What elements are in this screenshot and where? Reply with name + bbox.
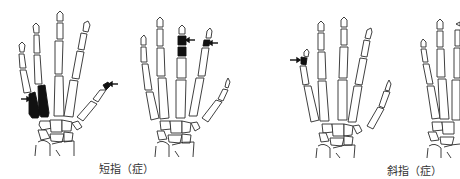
arrows — [290, 58, 300, 62]
carpals — [157, 121, 200, 143]
middle-finger — [176, 25, 186, 118]
middle-finger — [54, 11, 64, 116]
highlighted-middle-phalanx — [301, 57, 307, 65]
forearm — [316, 144, 355, 158]
ring-finger — [437, 19, 449, 119]
hand-4 — [421, 19, 460, 158]
hand-skeleton-figure — [0, 0, 460, 179]
little-finger — [141, 35, 159, 120]
thumb — [367, 80, 391, 129]
forearm — [35, 140, 74, 156]
carpals — [428, 122, 454, 145]
hand-3 — [290, 17, 391, 158]
forearm — [427, 144, 460, 158]
carpals — [319, 124, 362, 146]
caption-clinodactyly: 斜指（症） — [387, 162, 442, 178]
highlighted-metacarpal-4 — [38, 85, 49, 117]
arrows — [186, 38, 218, 45]
highlighted-middle-phalanx — [178, 36, 186, 45]
caption-brachydactyly: 短指（症） — [99, 160, 154, 176]
hand-2 — [141, 17, 230, 157]
carpals — [38, 120, 82, 142]
hand-1 — [19, 11, 118, 156]
highlighted-proximal-phalanx — [178, 47, 186, 56]
thumb — [77, 82, 110, 121]
ring-finger — [318, 21, 329, 121]
index-finger — [64, 21, 90, 117]
middle-finger — [452, 22, 460, 120]
thumb — [202, 78, 230, 122]
little-finger — [300, 49, 319, 122]
index-finger — [348, 28, 372, 122]
index-finger — [189, 28, 212, 116]
ring-finger — [157, 17, 169, 119]
middle-finger — [338, 17, 348, 120]
forearm — [155, 141, 194, 157]
